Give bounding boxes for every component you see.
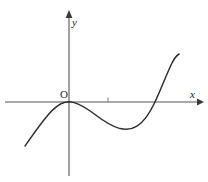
x-axis-label: x — [190, 89, 195, 100]
y-axis-label: y — [72, 17, 77, 28]
cubic-curve-path — [25, 54, 179, 146]
cubic-curve-figure: O y x — [0, 0, 208, 182]
x-axis-arrow-icon — [197, 99, 204, 106]
origin-label: O — [60, 89, 68, 100]
coordinate-plot — [0, 0, 208, 182]
